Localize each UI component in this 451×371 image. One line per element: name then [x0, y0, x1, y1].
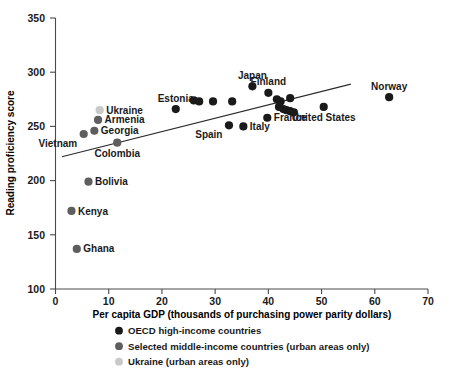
point-label: Bolivia: [95, 176, 128, 187]
x-tick-label: 10: [103, 295, 115, 307]
point-label: Colombia: [94, 148, 140, 159]
x-axis-ticks: 010203040506070: [53, 289, 434, 307]
y-tick-label: 250: [27, 120, 45, 132]
y-tick-label: 300: [27, 66, 45, 78]
point-label: Estonia: [158, 93, 195, 104]
point-label: Vietnam: [38, 138, 77, 149]
scatter-chart-figure: 100150200250300350 010203040506070 Eston…: [0, 0, 451, 371]
point-label: United States: [292, 112, 356, 123]
chart-canvas: 100150200250300350 010203040506070 Eston…: [0, 0, 451, 371]
data-point: [113, 139, 121, 147]
y-axis-title: Reading proficiency score: [5, 90, 16, 215]
x-tick-label: 70: [422, 295, 434, 307]
x-axis-title: Per capita GDP (thousands of purchasing …: [93, 309, 392, 320]
data-point: [239, 122, 247, 130]
data-point: [264, 89, 272, 97]
x-tick-label: 40: [263, 295, 275, 307]
data-point: [385, 93, 393, 101]
point-label: Kenya: [78, 206, 108, 217]
point-label: Ghana: [83, 243, 115, 254]
data-point: [73, 245, 81, 253]
y-tick-label: 150: [27, 229, 45, 241]
data-point: [67, 207, 75, 215]
data-point: [286, 94, 294, 102]
point-labels-layer: EstoniaSpainItalyJapanFinlandFranceUnite…: [38, 70, 407, 255]
y-tick-label: 200: [27, 174, 45, 186]
data-point: [320, 103, 328, 111]
point-label: Spain: [195, 129, 222, 140]
data-point: [80, 130, 88, 138]
legend-label: Ukraine (urban areas only): [128, 356, 249, 367]
data-point: [96, 106, 104, 114]
legend-label: Selected middle-income countries (urban …: [128, 341, 370, 352]
legend-marker: [115, 358, 123, 366]
x-tick-label: 30: [209, 295, 221, 307]
legend-marker: [115, 342, 123, 350]
data-point: [228, 97, 236, 105]
point-label: Italy: [250, 121, 270, 132]
legend-marker: [115, 327, 123, 335]
point-label: Norway: [371, 81, 408, 92]
point-label: Ukraine: [106, 105, 143, 116]
chart-legend: OECD high-income countriesSelected middl…: [115, 325, 369, 367]
point-label: Armenia: [105, 114, 145, 125]
x-tick-label: 50: [316, 295, 328, 307]
data-point: [84, 178, 92, 186]
data-point: [195, 97, 203, 105]
data-point: [209, 97, 217, 105]
data-point: [90, 127, 98, 135]
legend-label: OECD high-income countries: [128, 325, 261, 336]
point-label: Georgia: [101, 125, 139, 136]
x-tick-label: 0: [53, 295, 59, 307]
data-point: [94, 116, 102, 124]
x-tick-label: 60: [369, 295, 381, 307]
x-tick-label: 20: [156, 295, 168, 307]
y-tick-label: 350: [27, 12, 45, 24]
y-axis-ticks: 100150200250300350: [27, 12, 55, 295]
point-label: Finland: [251, 76, 287, 87]
data-point: [225, 121, 233, 129]
y-tick-label: 100: [27, 283, 45, 295]
data-point: [172, 105, 180, 113]
